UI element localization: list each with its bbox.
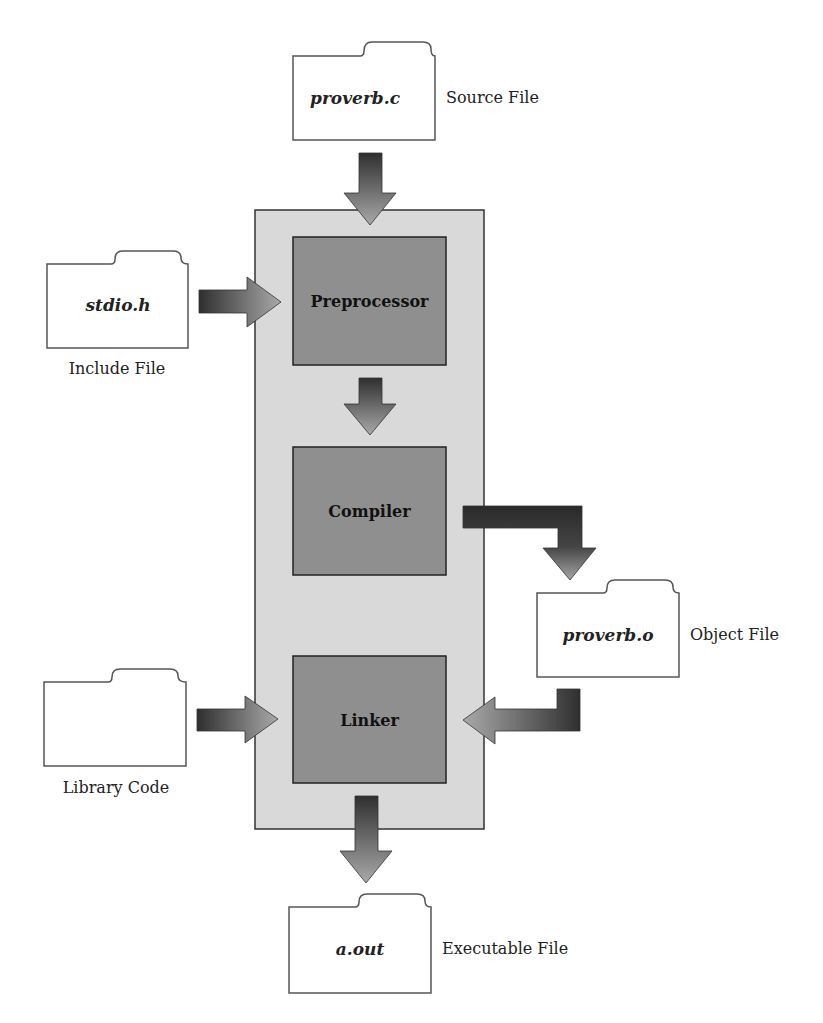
include-file-folder-icon: stdio.h <box>47 251 188 348</box>
compilation-diagram: Preprocessor Compiler Linker proverb.c S… <box>0 0 823 1023</box>
linker-stage: Linker <box>293 656 446 783</box>
executable-file-folder-icon: a.out <box>289 894 431 993</box>
source-file-caption: Source File <box>446 88 539 107</box>
object-file-folder-icon: proverb.o <box>537 580 679 677</box>
include-file-caption: Include File <box>69 359 166 378</box>
object-file-name: proverb.o <box>563 625 654 645</box>
include-file-name: stdio.h <box>84 295 150 315</box>
linker-label: Linker <box>340 711 399 730</box>
preprocessor-label: Preprocessor <box>311 292 430 311</box>
library-code-caption: Library Code <box>63 778 170 797</box>
compiler-stage: Compiler <box>293 447 446 575</box>
library-code-folder-icon <box>44 669 186 766</box>
preprocessor-stage: Preprocessor <box>293 237 446 365</box>
compiler-label: Compiler <box>328 502 411 521</box>
executable-file-caption: Executable File <box>442 939 568 958</box>
executable-file-name: a.out <box>336 939 385 959</box>
source-file-name: proverb.c <box>310 88 401 108</box>
source-file-folder-icon: proverb.c <box>293 42 435 140</box>
object-file-caption: Object File <box>690 625 779 644</box>
